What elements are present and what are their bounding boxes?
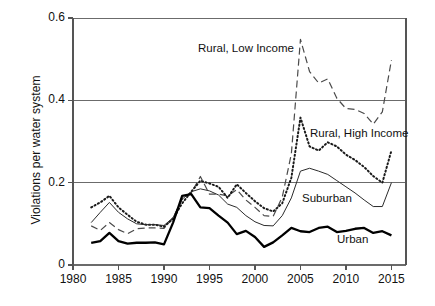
x-tick-label: 1985 <box>98 272 138 286</box>
x-tick-label: 2015 <box>371 272 411 286</box>
series-annotation-rural-low-income: Rural, Low Income <box>198 42 294 54</box>
x-tick-label: 2005 <box>280 272 320 286</box>
y-axis-title: Violations per water system <box>29 40 43 260</box>
y-tick-label: 0.2 <box>31 175 65 189</box>
x-tick-label: 2000 <box>235 272 275 286</box>
series-annotation-suburban: Suburban <box>302 192 352 204</box>
y-tick-label: 0.4 <box>31 92 65 106</box>
x-tick-label: 1990 <box>144 272 184 286</box>
y-tick-label: 0 <box>31 257 65 271</box>
x-tick-label: 1980 <box>53 272 93 286</box>
y-tick-label: 0.6 <box>31 10 65 24</box>
series-annotation-urban: Urban <box>337 233 368 245</box>
series-annotation-rural-high-income: Rural, High Income <box>310 127 408 139</box>
x-tick-label: 1995 <box>189 272 229 286</box>
chart-container: Violations per water system 198019851990… <box>0 0 435 306</box>
data-series-group <box>91 39 391 246</box>
x-tick-label: 2010 <box>326 272 366 286</box>
